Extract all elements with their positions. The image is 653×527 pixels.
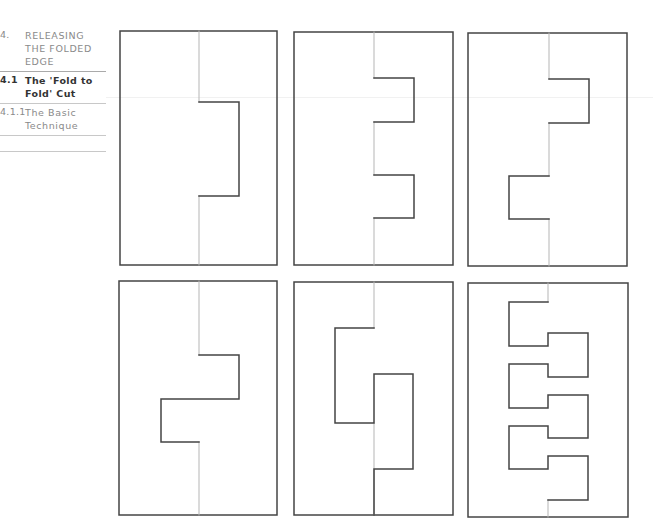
panel-6	[468, 283, 628, 517]
panel-2	[294, 32, 453, 265]
panel-5	[294, 282, 453, 515]
panel-1	[120, 31, 277, 265]
fold-cut-diagrams	[0, 0, 653, 527]
panel-4	[119, 281, 277, 515]
panel-3	[468, 33, 627, 266]
